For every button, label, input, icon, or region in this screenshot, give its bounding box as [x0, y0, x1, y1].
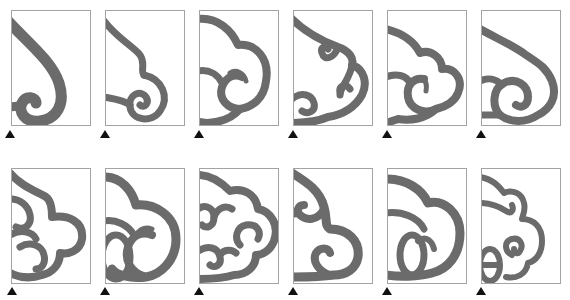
spiral-cloud-icon [482, 11, 561, 126]
motif-panel-2 [105, 10, 185, 126]
motif-panel-6 [481, 10, 561, 126]
triangle-marker [7, 287, 17, 295]
motif-panel-1 [11, 10, 91, 126]
motif-panel-7 [11, 168, 91, 284]
figure-description: Grid of 12 cloud-scroll ornament motifs,… [0, 0, 59, 1]
motif-panel-9 [199, 168, 279, 284]
triangle-marker [382, 287, 392, 295]
motif-panel-12 [481, 168, 561, 284]
motif-panel-4 [293, 10, 373, 126]
layered-spiral-cloud-icon [482, 169, 561, 284]
triangle-marker [476, 130, 486, 138]
triangle-marker [476, 287, 486, 295]
three-lobe-cloud-icon [388, 11, 467, 126]
interlocked-ring-cloud-icon [106, 169, 185, 284]
triangle-marker [5, 130, 15, 138]
interlaced-curl-cloud-icon [200, 169, 279, 284]
twin-curl-cloud-icon [294, 11, 373, 126]
two-lobe-cloud-icon [200, 11, 279, 126]
triangle-marker [194, 130, 204, 138]
triangle-marker [288, 287, 298, 295]
motif-panel-3 [199, 10, 279, 126]
triangle-marker [100, 287, 110, 295]
spiral-hook-icon [12, 11, 91, 126]
motif-panel-5 [387, 10, 467, 126]
triangle-marker [382, 130, 392, 138]
triangle-marker [194, 287, 204, 295]
triangle-marker [100, 130, 110, 138]
motif-panel-11 [387, 168, 467, 284]
broad-ring-cloud-icon [388, 169, 467, 284]
nested-curl-cloud-icon [12, 169, 91, 284]
motif-panel-10 [293, 168, 373, 284]
triangle-marker [288, 130, 298, 138]
s-curve-spiral-icon [106, 11, 185, 126]
motif-panel-8 [105, 168, 185, 284]
opposing-hook-cloud-icon [294, 169, 373, 284]
